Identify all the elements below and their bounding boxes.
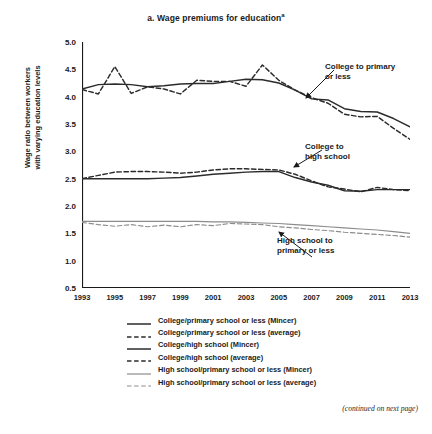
y-tick-4.0: 4.0 <box>0 92 76 101</box>
annotation-college-to-primary-line2: or less <box>325 72 395 82</box>
series-line-4 <box>82 221 410 233</box>
legend-key-dashed-icon <box>126 377 152 387</box>
x-tick-2003: 2003 <box>238 293 255 302</box>
x-tick-2011: 2011 <box>369 293 385 302</box>
y-tick-1.5: 1.5 <box>0 229 76 238</box>
legend-key-solid-icon <box>126 340 152 350</box>
legend-item-1[interactable]: College/primary school or less (average) <box>126 326 426 338</box>
y-tick-4.5: 4.5 <box>0 65 76 74</box>
legend-key-solid-icon <box>126 315 152 325</box>
annotation-high-school-to-primary-line1: High school to <box>277 236 334 246</box>
x-tick-2009: 2009 <box>336 293 353 302</box>
x-tick-1999: 1999 <box>172 293 189 302</box>
annotation-college-to-high-school-line2: high school <box>305 152 350 162</box>
x-tick-1993: 1993 <box>74 293 91 302</box>
series-line-5 <box>82 222 410 237</box>
legend-item-4[interactable]: High school/primary school or less (Minc… <box>126 364 426 376</box>
footnote-continued: (continued on next page) <box>0 404 418 413</box>
annotation-high-school-to-primary: High school to primary or less <box>277 236 334 256</box>
legend-label-2: College/high school (Mincer) <box>158 340 259 349</box>
x-axis-tick-labels: 1993199519971999200120032005200720092011… <box>0 293 432 307</box>
figure-wage-premiums: a. Wage premiums for educationa Wage rat… <box>0 0 432 434</box>
chart-legend: College/primary school or less (Mincer)C… <box>126 314 426 388</box>
legend-key-dashed-icon <box>126 352 152 362</box>
legend-key-dashed-icon <box>126 328 152 338</box>
legend-item-3[interactable]: College/high school (average) <box>126 351 426 363</box>
legend-label-0: College/primary school or less (Mincer) <box>158 316 296 325</box>
series-line-2 <box>82 172 410 192</box>
annotation-college-to-primary-line1: College to primary <box>325 62 395 72</box>
y-tick-1.0: 1.0 <box>0 256 76 265</box>
y-tick-5.0: 5.0 <box>0 38 76 47</box>
x-tick-2013: 2013 <box>402 293 419 302</box>
legend-key-solid-icon <box>126 365 152 375</box>
x-tick-2001: 2001 <box>205 293 222 302</box>
x-tick-2007: 2007 <box>303 293 320 302</box>
y-tick-0.5: 0.5 <box>0 284 76 293</box>
legend-item-2[interactable]: College/high school (Mincer) <box>126 339 426 351</box>
x-tick-1995: 1995 <box>106 293 123 302</box>
legend-label-1: College/primary school or less (average) <box>158 328 301 337</box>
y-tick-3.0: 3.0 <box>0 147 76 156</box>
y-tick-2.5: 2.5 <box>0 174 76 183</box>
legend-label-5: High school/primary school or less (aver… <box>158 378 316 387</box>
legend-label-4: High school/primary school or less (Minc… <box>158 365 312 374</box>
annotation-college-to-high-school: College to high school <box>305 142 350 162</box>
y-tick-3.5: 3.5 <box>0 120 76 129</box>
x-tick-2005: 2005 <box>270 293 287 302</box>
annotation-high-school-to-primary-line2: primary or less <box>277 246 334 256</box>
legend-label-3: College/high school (average) <box>158 353 263 362</box>
annotation-college-to-primary: College to primary or less <box>325 62 395 82</box>
y-tick-2.0: 2.0 <box>0 202 76 211</box>
annotation-college-to-high-school-line1: College to <box>305 142 350 152</box>
x-tick-1997: 1997 <box>139 293 156 302</box>
legend-item-0[interactable]: College/primary school or less (Mincer) <box>126 314 426 326</box>
legend-item-5[interactable]: High school/primary school or less (aver… <box>126 376 426 388</box>
